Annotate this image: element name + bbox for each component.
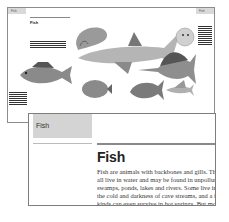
right-sidebar-text-1 [198,26,212,46]
left-page-tab: Fish [8,8,26,14]
grouper-illustration-icon [128,76,164,102]
flatfish-illustration-icon [80,78,112,100]
body-line: the cold and darkness of cave streams, a… [97,192,216,200]
page-spread-thumbnail: Fish Fish Fish [7,7,215,123]
intro-text-2 [30,41,66,49]
zoomed-inset-panel: Fish Fish Fish are animals with backbone… [28,113,216,206]
spread-article-title: Fish [30,20,38,25]
body-line: all live in water and may be found in un… [97,176,216,184]
intro-text-3 [30,50,66,56]
caption-left [9,92,27,106]
title-rule [97,143,216,145]
pufferfish-illustration-icon [174,26,196,48]
body-line: swamps, ponds, lakes and rivers. Some li… [97,184,216,192]
article-title: Fish [97,149,125,165]
left-tab-label: Fish [11,9,17,13]
right-sidebar-text-3 [198,74,212,114]
section-tab: Fish [33,114,92,138]
right-sidebar-text-2 [198,48,212,70]
title-rule [30,17,70,18]
section-tab-label: Fish [36,122,49,129]
flyingfish-illustration-icon [164,78,194,100]
right-tab-label: Fish [199,9,205,13]
caption-bottom-right [160,102,188,112]
perch-illustration-icon [18,60,74,90]
intro-text [30,26,66,40]
body-line: Fish are animals with backbones and gill… [97,168,216,176]
article-body: Fish are animals with backbones and gill… [97,168,216,206]
body-line: kinds can even survive in hot springs. B… [97,200,216,206]
right-page-tab: Fish [196,8,214,14]
caption-bottom-center [120,102,148,110]
left-column-rule [33,143,92,144]
